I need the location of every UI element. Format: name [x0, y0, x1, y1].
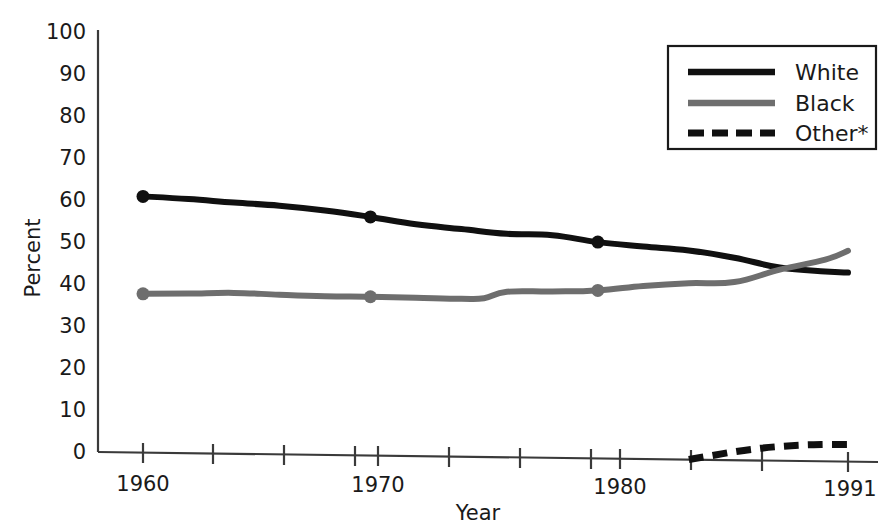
x-tick-label: 1960: [116, 472, 169, 496]
y-tick-label: 0: [73, 440, 86, 464]
data-point-marker: [364, 290, 377, 303]
y-tick-label: 10: [59, 398, 86, 422]
legend-label-black: Black: [795, 91, 855, 116]
chart-page: 100 90 80 70 60 50 40 30 20 10 0: [0, 0, 889, 528]
chart-legend: White Black Other*: [668, 46, 876, 149]
y-tick-label: 100: [46, 20, 86, 44]
x-tick-label: 1991: [823, 477, 876, 501]
line-chart: 100 90 80 70 60 50 40 30 20 10 0: [0, 0, 889, 528]
y-tick-label: 30: [59, 314, 86, 338]
legend-label-other: Other*: [795, 121, 868, 146]
x-tick-label: 1980: [593, 475, 646, 499]
y-tick-label: 80: [59, 104, 86, 128]
data-point-marker: [591, 236, 604, 249]
y-axis-title: Percent: [21, 218, 45, 297]
y-tick-label: 70: [59, 146, 86, 170]
data-point-marker: [364, 210, 377, 223]
y-tick-label: 50: [59, 230, 86, 254]
y-tick-label: 60: [59, 188, 86, 212]
legend-label-white: White: [795, 60, 859, 85]
data-point-marker: [137, 287, 150, 300]
x-axis-title: Year: [455, 501, 501, 525]
data-point-marker: [591, 284, 604, 297]
y-tick-label: 20: [59, 356, 86, 380]
y-tick-label: 40: [59, 272, 86, 296]
y-tick-label: 90: [59, 62, 86, 86]
data-point-marker: [137, 190, 150, 203]
x-tick-label: 1970: [351, 473, 404, 497]
